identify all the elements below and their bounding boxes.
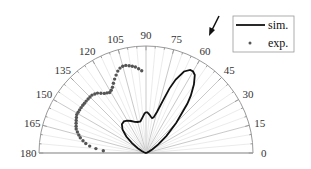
- exp-point: [75, 116, 78, 119]
- exp-point: [124, 64, 127, 67]
- exp-point: [102, 149, 105, 152]
- exp-point: [113, 77, 116, 80]
- polar-grid: [39, 46, 253, 153]
- angle-label-180: 180: [20, 147, 37, 159]
- exp-point: [116, 69, 119, 72]
- exp-point: [75, 113, 78, 116]
- exp-point: [140, 69, 143, 72]
- gridline: [146, 108, 243, 153]
- exp-point: [103, 92, 106, 95]
- tick-mark: [93, 60, 95, 64]
- exp-point: [114, 73, 117, 76]
- tick-mark: [173, 50, 174, 54]
- tick-mark: [70, 77, 73, 80]
- tick-mark: [53, 100, 57, 102]
- exp-point: [94, 147, 97, 150]
- angle-label-165: 165: [24, 117, 41, 129]
- arrow-annotation-icon: [209, 16, 219, 36]
- angle-label-90: 90: [141, 29, 153, 41]
- exp-point: [81, 139, 84, 142]
- angle-label-135: 135: [55, 64, 72, 76]
- angle-label-120: 120: [79, 45, 96, 57]
- exp-point: [74, 122, 77, 125]
- angle-label-0: 0: [261, 147, 267, 159]
- exp-point: [84, 142, 87, 145]
- tick-mark: [197, 60, 199, 64]
- exp-point: [88, 144, 91, 147]
- angle-label-15: 15: [254, 117, 266, 129]
- tick-mark: [43, 125, 47, 126]
- angle-label-30: 30: [242, 88, 254, 100]
- tick-mark: [235, 100, 239, 102]
- exp-point: [131, 65, 134, 68]
- legend-dot-swatch: [249, 42, 252, 45]
- exp-point: [75, 127, 78, 130]
- angle-label-60: 60: [199, 45, 211, 57]
- exp-point: [118, 66, 121, 69]
- tick-mark: [245, 125, 249, 126]
- angle-label-105: 105: [107, 33, 124, 45]
- polar-chart: 0153045607590105120135150165180 sim. exp…: [0, 0, 311, 169]
- gridline: [101, 56, 146, 153]
- exp-point: [99, 92, 102, 95]
- exp-point: [79, 136, 82, 139]
- exp-point: [112, 82, 115, 85]
- gridline: [146, 50, 174, 153]
- exp-point: [134, 65, 137, 68]
- legend: sim. exp.: [233, 16, 294, 52]
- gridline: [146, 125, 249, 153]
- exp-point: [111, 86, 114, 89]
- exp-point: [137, 67, 140, 70]
- angle-label-150: 150: [36, 88, 53, 100]
- angle-label-75: 75: [171, 33, 183, 45]
- legend-label-sim: sim.: [268, 18, 288, 32]
- exp-point: [76, 130, 79, 133]
- exp-point: [127, 64, 130, 67]
- angle-label-45: 45: [224, 64, 236, 76]
- legend-label-exp: exp.: [268, 36, 288, 50]
- exp-point: [75, 119, 78, 122]
- tick-mark: [118, 50, 119, 54]
- tick-mark: [219, 77, 222, 80]
- gridline: [49, 108, 146, 153]
